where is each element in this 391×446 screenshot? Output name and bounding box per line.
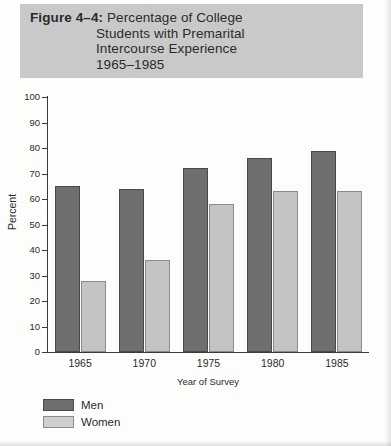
y-axis-tick-mark bbox=[42, 97, 47, 98]
y-axis-tick-label: 80 bbox=[18, 143, 40, 153]
chart-legend: MenWomen bbox=[43, 396, 120, 430]
legend-swatch-women bbox=[43, 416, 74, 428]
y-axis-tick: 20 bbox=[0, 301, 47, 302]
y-axis-tick-label: 70 bbox=[18, 169, 40, 179]
x-axis-line bbox=[47, 352, 369, 353]
x-axis-tick-label-1980: 1980 bbox=[243, 358, 303, 369]
y-axis-tick-label: 100 bbox=[18, 92, 40, 102]
y-axis-tick: 90 bbox=[0, 123, 47, 124]
page-edge-shadow-right bbox=[385, 0, 391, 446]
y-axis-tick: 30 bbox=[0, 276, 47, 277]
y-axis-tick-label: 0 bbox=[18, 347, 40, 357]
figure-page: Figure 4–4: Percentage of College Studen… bbox=[0, 0, 391, 446]
bar-women-1965 bbox=[81, 281, 106, 352]
y-axis-tick: 100 bbox=[0, 97, 47, 98]
legend-swatch-men bbox=[43, 399, 74, 411]
bar-men-1975 bbox=[183, 168, 208, 352]
y-axis-title: Percent bbox=[6, 167, 18, 257]
bar-chart: 0102030405060708090100 Percent 196519701… bbox=[0, 0, 391, 446]
y-axis-tick-mark bbox=[42, 352, 47, 353]
legend-label-women: Women bbox=[81, 416, 120, 428]
page-edge-shadow-bottom bbox=[0, 441, 391, 446]
bar-men-1980 bbox=[247, 158, 272, 352]
bar-men-1985 bbox=[311, 151, 336, 352]
bar-men-1970 bbox=[119, 189, 144, 352]
y-axis-tick-mark bbox=[42, 174, 47, 175]
y-axis-tick-mark bbox=[42, 301, 47, 302]
y-axis-tick-mark bbox=[42, 199, 47, 200]
bar-women-1980 bbox=[273, 191, 298, 352]
y-axis-tick: 80 bbox=[0, 148, 47, 149]
y-axis-tick-label: 90 bbox=[18, 118, 40, 128]
legend-item-men: Men bbox=[43, 396, 120, 413]
y-axis-tick-label: 40 bbox=[18, 245, 40, 255]
y-axis-tick-mark bbox=[42, 250, 47, 251]
y-axis-tick-label: 60 bbox=[18, 194, 40, 204]
y-axis-tick-label: 30 bbox=[18, 271, 40, 281]
y-axis-tick-label: 10 bbox=[18, 322, 40, 332]
legend-item-women: Women bbox=[43, 413, 120, 430]
y-axis-tick-label: 50 bbox=[18, 220, 40, 230]
x-axis-title: Year of Survey bbox=[47, 376, 369, 387]
x-axis-tick-label-1985: 1985 bbox=[307, 358, 367, 369]
x-axis-tick-label-1965: 1965 bbox=[50, 358, 110, 369]
y-axis-tick-mark bbox=[42, 148, 47, 149]
bar-women-1970 bbox=[145, 260, 170, 352]
bar-men-1965 bbox=[55, 186, 80, 352]
y-axis-tick-mark bbox=[42, 123, 47, 124]
bar-women-1975 bbox=[209, 204, 234, 352]
y-axis-tick-mark bbox=[42, 225, 47, 226]
y-axis-tick-mark bbox=[42, 276, 47, 277]
y-axis-tick: 10 bbox=[0, 327, 47, 328]
y-axis-tick-mark bbox=[42, 327, 47, 328]
y-axis-tick: 0 bbox=[0, 352, 47, 353]
y-axis-line bbox=[47, 96, 48, 353]
x-axis-tick-label-1975: 1975 bbox=[179, 358, 239, 369]
bar-women-1985 bbox=[337, 191, 362, 352]
y-axis-tick-label: 20 bbox=[18, 296, 40, 306]
legend-label-men: Men bbox=[81, 399, 103, 411]
x-axis-tick-label-1970: 1970 bbox=[114, 358, 174, 369]
